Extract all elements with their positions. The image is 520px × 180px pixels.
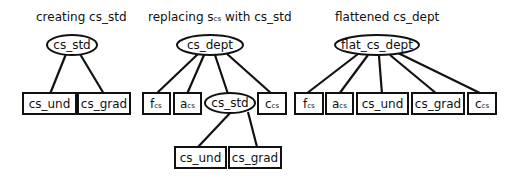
edge — [156, 54, 198, 94]
node-label: cs_und — [362, 97, 404, 111]
edge — [198, 112, 231, 147]
node-f-cs: fcs — [143, 93, 170, 114]
node-label: cs_grad — [232, 151, 278, 165]
node-cs-und: cs_und — [23, 93, 76, 114]
panel-replacing: replacing scs with cs_std cs_dept fcs ac… — [143, 10, 292, 168]
edge — [248, 112, 257, 147]
node-c-cs: ccs — [258, 93, 286, 114]
node-a-cs: acs — [174, 93, 201, 114]
panel-creating-cs-std: creating cs_std cs_std cs_und cs_grad — [23, 10, 130, 114]
diagram-canvas: creating cs_std cs_std cs_und cs_grad re… — [0, 0, 520, 180]
node-cs-und: cs_und — [175, 147, 226, 168]
node-cs-dept: cs_dept — [177, 35, 243, 55]
node-label: cs_dept — [187, 38, 233, 52]
node-label: cs_und — [29, 97, 71, 111]
node-cs-std: cs_std — [47, 35, 97, 55]
node-a-cs: acs — [326, 93, 353, 114]
panel-flattened: flattened cs_dept flat_cs_dept fcs acs c… — [295, 10, 496, 114]
node-cs-grad: cs_grad — [412, 93, 464, 114]
edge — [306, 54, 358, 94]
node-label: cs_und — [180, 151, 222, 165]
node-label: cs_std — [53, 38, 90, 52]
edge — [339, 55, 368, 94]
panel-title: creating cs_std — [36, 10, 127, 24]
node-flat-cs-dept: flat_cs_dept — [335, 35, 419, 55]
node-cs-grad: cs_grad — [78, 93, 130, 114]
edge — [80, 54, 104, 94]
node-label: cs_std — [211, 96, 248, 110]
node-label: cs_grad — [81, 97, 127, 111]
node-cs-std: cs_std — [205, 93, 255, 113]
node-cs-grad: cs_grad — [229, 147, 281, 168]
node-label: cs_grad — [415, 97, 461, 111]
panel-title: replacing scs with cs_std — [148, 10, 292, 24]
edge — [50, 54, 66, 94]
node-cs-und: cs_und — [357, 93, 408, 114]
edge — [215, 55, 228, 94]
panel-title: flattened cs_dept — [335, 10, 440, 24]
node-c-cs: ccs — [468, 93, 496, 114]
edge — [379, 56, 382, 94]
node-f-cs: fcs — [295, 93, 323, 114]
edge — [226, 53, 272, 94]
node-label: flat_cs_dept — [341, 38, 413, 52]
